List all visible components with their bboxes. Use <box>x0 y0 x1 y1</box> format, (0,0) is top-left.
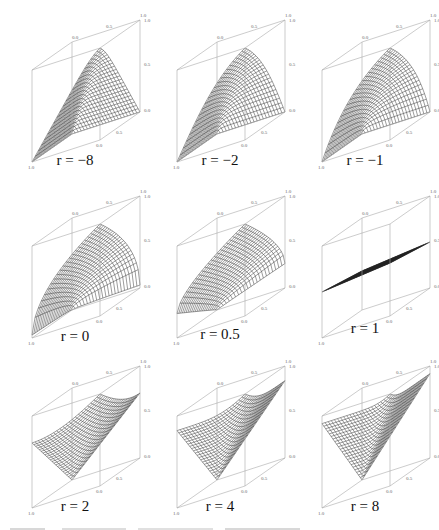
surface-plot: 0.00.51.01.00.50.00.50.01.0 <box>2 178 148 328</box>
svg-text:0.5: 0.5 <box>406 306 413 311</box>
svg-text:0.5: 0.5 <box>116 476 123 481</box>
surface-plot: 0.00.51.01.00.50.00.50.01.0 <box>2 2 148 152</box>
svg-text:0.5: 0.5 <box>251 24 258 29</box>
svg-text:0.5: 0.5 <box>261 130 268 135</box>
surface-plot: 0.00.51.01.00.50.00.50.01.0 <box>147 348 293 498</box>
svg-text:0.5: 0.5 <box>434 408 439 413</box>
panel-r-minus-1: 0.00.51.01.00.50.00.50.01.0 r = −1 <box>292 2 438 172</box>
svg-text:0.0: 0.0 <box>386 143 393 148</box>
svg-text:1.0: 1.0 <box>434 364 439 369</box>
panel-label: r = 0.5 <box>147 326 293 343</box>
svg-text:0.0: 0.0 <box>96 489 103 494</box>
svg-text:0.0: 0.0 <box>96 319 103 324</box>
svg-text:0.0: 0.0 <box>217 381 224 386</box>
svg-text:0.0: 0.0 <box>241 489 248 494</box>
svg-text:0.0: 0.0 <box>72 211 79 216</box>
panel-r-0: 0.00.51.01.00.50.00.50.01.0 r = 0 <box>2 178 148 348</box>
figure-caption-cutoff <box>10 524 300 530</box>
panel-label: r = −8 <box>2 152 148 169</box>
surface-plot: 0.00.51.01.00.50.00.50.01.0 <box>147 178 293 328</box>
svg-text:0.0: 0.0 <box>434 108 439 113</box>
surface-plot: 0.00.51.01.00.50.00.50.01.0 <box>292 348 438 498</box>
svg-text:0.5: 0.5 <box>261 306 268 311</box>
panel-r-minus-2: 0.00.51.01.00.50.00.50.01.0 r = −2 <box>147 2 293 172</box>
svg-text:0.5: 0.5 <box>406 130 413 135</box>
svg-text:0.5: 0.5 <box>106 24 113 29</box>
svg-text:0.5: 0.5 <box>434 238 439 243</box>
panel-r-1: 0.00.51.01.00.50.00.50.01.0 r = 1 <box>292 178 438 348</box>
panel-r-0-5: 0.00.51.01.00.50.00.50.01.0 r = 0.5 <box>147 178 293 348</box>
panel-label: r = 8 <box>292 498 438 515</box>
panel-r-2: 0.00.51.01.00.50.00.50.01.0 r = 2 <box>2 348 148 518</box>
surface-plot: 0.00.51.01.00.50.00.50.01.0 <box>292 2 438 152</box>
svg-text:0.0: 0.0 <box>434 454 439 459</box>
svg-text:0.0: 0.0 <box>362 35 369 40</box>
svg-text:0.0: 0.0 <box>241 143 248 148</box>
svg-text:0.0: 0.0 <box>72 35 79 40</box>
svg-text:1.0: 1.0 <box>318 341 325 346</box>
panel-r-minus-8: 0.00.51.01.00.50.00.50.01.0 r = −8 <box>2 2 148 172</box>
svg-text:1.0: 1.0 <box>434 194 439 199</box>
panel-label: r = 1 <box>292 320 438 337</box>
svg-text:0.0: 0.0 <box>241 319 248 324</box>
svg-text:0.0: 0.0 <box>96 143 103 148</box>
surface-plot: 0.00.51.01.00.50.00.50.01.0 <box>2 348 148 498</box>
svg-text:0.5: 0.5 <box>396 370 403 375</box>
svg-text:0.0: 0.0 <box>362 211 369 216</box>
panel-r-8: 0.00.51.01.00.50.00.50.01.0 r = 8 <box>292 348 438 518</box>
svg-text:0.5: 0.5 <box>434 62 439 67</box>
svg-text:0.0: 0.0 <box>72 381 79 386</box>
panel-label: r = −2 <box>147 152 293 169</box>
panel-label: r = 4 <box>147 498 293 515</box>
svg-text:0.0: 0.0 <box>217 35 224 40</box>
svg-text:0.5: 0.5 <box>261 476 268 481</box>
surface-plot: 0.00.51.01.00.50.00.50.01.0 <box>147 2 293 152</box>
svg-text:0.5: 0.5 <box>396 200 403 205</box>
svg-text:0.0: 0.0 <box>362 381 369 386</box>
svg-text:0.5: 0.5 <box>106 200 113 205</box>
svg-text:0.5: 0.5 <box>396 24 403 29</box>
panel-label: r = 0 <box>2 328 148 345</box>
svg-text:1.0: 1.0 <box>434 18 439 23</box>
svg-text:0.5: 0.5 <box>106 370 113 375</box>
svg-text:0.0: 0.0 <box>434 284 439 289</box>
svg-text:0.5: 0.5 <box>116 306 123 311</box>
figure-grid: 0.00.51.01.00.50.00.50.01.0 r = −8 0.00.… <box>0 0 439 530</box>
svg-text:0.5: 0.5 <box>251 370 258 375</box>
svg-text:0.5: 0.5 <box>251 200 258 205</box>
panel-label: r = −1 <box>292 152 438 169</box>
svg-text:0.0: 0.0 <box>386 489 393 494</box>
panel-label: r = 2 <box>2 498 148 515</box>
panel-r-4: 0.00.51.01.00.50.00.50.01.0 r = 4 <box>147 348 293 518</box>
svg-text:0.0: 0.0 <box>217 211 224 216</box>
surface-plot: 0.00.51.01.00.50.00.50.01.0 <box>292 178 438 328</box>
svg-text:0.5: 0.5 <box>406 476 413 481</box>
svg-text:0.5: 0.5 <box>116 130 123 135</box>
